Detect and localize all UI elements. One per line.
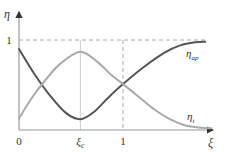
reference-lines [19,40,207,130]
x-tick-label-2: 1 [120,135,126,147]
y-axis-label: η [4,7,10,21]
y-tick-label-0: 1 [6,34,12,46]
series-group [19,42,211,128]
series-label-η-t: ηt [187,110,195,125]
chart: η ξ 0ξc11 ηapηt [0,0,225,155]
series-line-η-ap [19,42,205,119]
series-labels: ηapηt [186,47,199,125]
tick-labels: 0ξc11 [6,34,126,150]
series-label-η-ap: ηap [186,47,199,62]
x-tick-label-1: ξc [76,135,85,150]
x-tick-label-0: 0 [16,135,22,147]
x-axis-label: ξ [208,136,214,150]
